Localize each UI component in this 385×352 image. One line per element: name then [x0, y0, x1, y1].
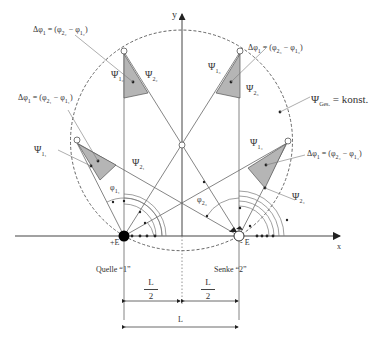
flux-triangle-1: [78, 144, 116, 180]
psi-1-2-label: Ψ1₂: [111, 70, 123, 82]
psi-2-3-label: Ψ2₃: [246, 84, 258, 96]
source-angle-arcs: [107, 194, 166, 236]
delta-phi-label-4: Δφ1 = (φ2₄ − φ1₄): [307, 150, 362, 160]
sink-charge-label: - E: [240, 239, 250, 247]
psi-1-3-label: Ψ1₃: [208, 62, 220, 74]
sink-name-label: Senke “2”: [214, 266, 247, 274]
phi-1-1-label: φ1₁: [110, 184, 120, 194]
source-charge: [119, 231, 130, 242]
full-length-label: L: [178, 316, 183, 324]
psi-1-1-label: Ψ1₁: [34, 145, 46, 157]
constant-flux-label: ΨGes. = konst.: [311, 94, 368, 107]
y-axis-label: y: [172, 10, 177, 20]
field-diagram: [0, 0, 385, 352]
psi-2-4-label: Ψ2₄: [292, 192, 304, 204]
source-charge-label: +E: [110, 239, 119, 247]
psi-2-2-label: Ψ2₂: [145, 70, 157, 82]
psi-1-4-label: Ψ1₄: [250, 138, 262, 150]
flux-triangle-3: [216, 54, 240, 98]
flux-triangle-4: [248, 144, 286, 188]
half-length-label-left: L2: [144, 278, 158, 301]
delta-phi-label-2: Δφ1 = (φ2₂ − φ1₂): [33, 26, 88, 36]
x-axis-label: x: [337, 243, 341, 251]
phi-2-3-label: φ2₃: [197, 196, 207, 206]
half-length-label-right: L2: [201, 278, 215, 301]
sink-angle-arcs: [207, 191, 284, 236]
delta-phi-label-1: Δφ1 = (φ2₁ − φ1₁): [18, 94, 73, 104]
center-point: [179, 142, 185, 148]
psi-2-1-label: Ψ2₁: [132, 158, 144, 170]
source-name-label: Quelle “1”: [96, 266, 130, 274]
delta-phi-label-3: Δφ1 = (φ2₃ − φ1₃): [248, 44, 303, 54]
